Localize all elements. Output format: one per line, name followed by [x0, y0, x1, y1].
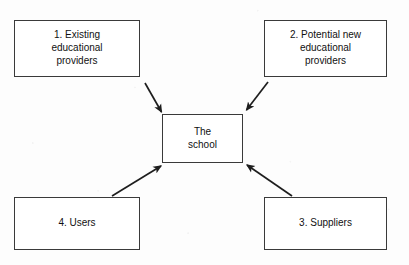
node-label: 2. Potential new educational providers	[286, 29, 365, 67]
arrow-users-to-school	[112, 166, 161, 196]
arrow-suppliers-to-school	[247, 165, 292, 196]
node-potential-new-educational-providers: 2. Potential new educational providers	[264, 20, 387, 77]
node-label: 1. Existing educational providers	[47, 29, 106, 67]
node-label: The school	[184, 126, 221, 152]
node-label: 4. Users	[54, 217, 99, 230]
node-the-school: The school	[162, 114, 243, 163]
diagram-canvas: 1. Existing educational providers 2. Pot…	[0, 0, 409, 265]
node-existing-educational-providers: 1. Existing educational providers	[14, 20, 140, 77]
arrow-potential-to-school	[247, 82, 269, 110]
node-suppliers: 3. Suppliers	[264, 197, 387, 250]
node-label: 3. Suppliers	[295, 217, 356, 230]
arrow-existing-to-school	[145, 83, 162, 112]
node-users: 4. Users	[14, 197, 140, 250]
